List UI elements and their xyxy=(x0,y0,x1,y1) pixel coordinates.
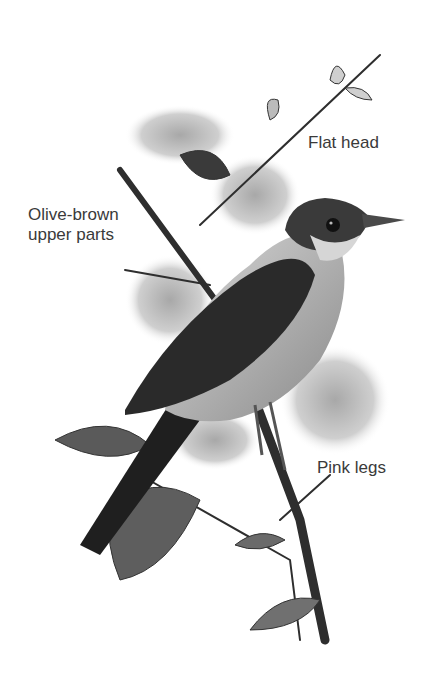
label-line: upper parts xyxy=(28,225,119,245)
bird-illustration xyxy=(0,0,435,700)
label-line: Olive-brown xyxy=(28,205,119,225)
label-pink-legs: Pink legs xyxy=(317,458,386,478)
label-flat-head: Flat head xyxy=(308,133,379,153)
label-olive-brown-upper-parts: Olive-brown upper parts xyxy=(28,205,119,245)
